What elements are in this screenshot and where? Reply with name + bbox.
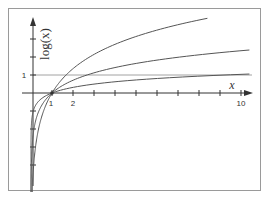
x-axis-arrow-icon	[244, 90, 253, 96]
curve-medium	[31, 50, 249, 192]
chart-plot: 1 2 10 1 x log(x)	[0, 0, 270, 201]
y-axis-label: log(x)	[37, 28, 52, 60]
intersection-point	[50, 91, 54, 95]
x-tick-label-1: 1	[49, 99, 54, 108]
x-axis-label: x	[228, 78, 235, 92]
log-curves	[31, 18, 249, 192]
curve-steep	[32, 18, 207, 192]
x-tick-label-10: 10	[237, 99, 246, 108]
y-axis-arrow-icon	[30, 17, 36, 26]
curve-flat	[31, 74, 249, 192]
y-tick-label-1: 1	[22, 71, 27, 80]
x-tick-label-2: 2	[71, 99, 76, 108]
